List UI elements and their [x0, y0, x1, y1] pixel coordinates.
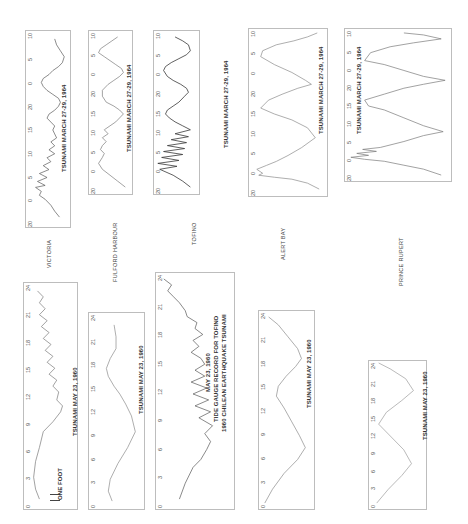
axis-tick-label: 6 — [90, 458, 96, 461]
caption-alert-bay-1960: TSUNAMI MAY 23, 1960 — [306, 339, 312, 408]
axis-tick-label: 5 — [27, 58, 33, 61]
axis-tick-label: 0 — [25, 505, 31, 508]
axis-tick-label: 9 — [25, 423, 31, 426]
station-label-tofino: TOFINO — [191, 223, 197, 245]
axis-tick-label: 18 — [90, 362, 96, 368]
axis-tick-label: 6 — [157, 448, 163, 451]
caption-prince-rupert-1964: TSUNAMI MARCH 27-29, 1964 — [356, 46, 362, 134]
axis-tick-label: 21 — [157, 304, 163, 310]
axis-tick-label: 12 — [157, 389, 163, 395]
axis-tick-label: 20 — [155, 91, 161, 97]
axis-tick-label: 10 — [346, 31, 352, 37]
axis-tick-label: 15 — [25, 367, 31, 373]
axis-tick-label: 5 — [155, 54, 161, 57]
axis-tick-label: 15 — [155, 111, 161, 117]
station-label-alert-bay: ALERT BAY — [280, 228, 286, 260]
chart-prince-rupert-1960 — [368, 360, 427, 510]
axis-tick-label: 15 — [90, 386, 96, 392]
axis-tick-label: 20 — [90, 188, 96, 194]
axis-tick-label: 20 — [346, 175, 352, 181]
axis-tick-label: 15 — [370, 416, 376, 422]
scale-label-one-foot: ONE FOOT — [57, 468, 63, 500]
caption-tofino-1964: TSUNAMI MARCH 27-29, 1964 — [223, 60, 229, 148]
axis-tick-label: 9 — [90, 434, 96, 437]
chart-fulford-1960 — [88, 312, 145, 510]
axis-tick-label: 5 — [90, 54, 96, 57]
chart-alert-bay-1964 — [248, 28, 328, 197]
axis-tick-label: 0 — [27, 199, 33, 202]
axis-tick-label: 20 — [250, 91, 256, 97]
caption-fulford-1964: TSUNAMI MARCH 27-29, 1964 — [126, 64, 132, 152]
axis-tick-label: 21 — [25, 312, 31, 318]
station-label-victoria: VICTORIA — [46, 240, 52, 268]
axis-tick-label: 3 — [370, 487, 376, 490]
caption-alert-bay-1964: TSUNAMI MARCH 27-29, 1964 — [318, 46, 324, 134]
axis-tick-label: 21 — [370, 381, 376, 387]
axis-tick-label: 18 — [370, 398, 376, 404]
caption-victoria-1964: TSUNAMI MARCH 27-29, 1964 — [61, 84, 67, 172]
axis-tick-label: 20 — [155, 188, 161, 194]
axis-tick-label: 18 — [260, 361, 266, 367]
axis-tick-label: 15 — [157, 361, 163, 367]
axis-tick-label: 0 — [155, 73, 161, 76]
axis-tick-label: 20 — [27, 104, 33, 110]
tide-curve — [369, 361, 426, 509]
station-label-prince-rupert: PRINCE RUPERT — [398, 237, 404, 286]
axis-tick-label: 9 — [370, 452, 376, 455]
axis-tick-label: 0 — [370, 505, 376, 508]
station-label-fulford-harbour: FULFORD HARBOUR — [112, 222, 118, 282]
axis-tick-label: 0 — [90, 73, 96, 76]
caption-tofino-1960-line2: TIDE GAUGE RECORD FOR TOFINO — [213, 316, 219, 422]
axis-tick-label: 12 — [370, 433, 376, 439]
axis-tick-label: 10 — [155, 130, 161, 136]
axis-tick-label: 3 — [157, 476, 163, 479]
axis-tick-label: 0 — [90, 170, 96, 173]
chart-victoria-1960 — [23, 282, 78, 510]
axis-tick-label: 15 — [260, 384, 266, 390]
axis-tick-label: 5 — [155, 151, 161, 154]
caption-fulford-1960: TSUNAMI MAY 23, 1960 — [138, 345, 144, 414]
axis-tick-label: 0 — [260, 505, 266, 508]
tide-curve — [24, 283, 77, 509]
axis-tick-label: 15 — [250, 111, 256, 117]
axis-tick-label: 10 — [155, 33, 161, 39]
axis-tick-label: 5 — [250, 152, 256, 155]
axis-tick-label: 12 — [25, 394, 31, 400]
axis-tick-label: 6 — [25, 450, 31, 453]
axis-tick-label: 10 — [250, 31, 256, 37]
axis-tick-label: 6 — [260, 457, 266, 460]
axis-tick-label: 0 — [27, 82, 33, 85]
axis-tick-label: 24 — [260, 313, 266, 319]
axis-tick-label: 6 — [370, 470, 376, 473]
axis-tick-label: 12 — [90, 409, 96, 415]
axis-tick-label: 15 — [346, 103, 352, 109]
axis-tick-label: 5 — [346, 51, 352, 54]
axis-tick-label: 12 — [260, 408, 266, 414]
axis-tick-label: 0 — [346, 159, 352, 162]
axis-tick-label: 10 — [27, 151, 33, 157]
axis-tick-label: 20 — [346, 85, 352, 91]
axis-tick-label: 9 — [157, 419, 163, 422]
axis-tick-label: 21 — [90, 339, 96, 345]
axis-tick-label: 10 — [90, 33, 96, 39]
axis-tick-label: 3 — [25, 477, 31, 480]
axis-tick-label: 10 — [250, 130, 256, 136]
axis-tick-label: 20 — [250, 190, 256, 196]
axis-tick-label: 0 — [250, 72, 256, 75]
axis-tick-label: 10 — [346, 121, 352, 127]
axis-tick-label: 0 — [157, 505, 163, 508]
axis-tick-label: 5 — [346, 141, 352, 144]
axis-tick-label: 24 — [90, 315, 96, 321]
axis-tick-label: 3 — [90, 481, 96, 484]
axis-tick-label: 0 — [346, 69, 352, 72]
axis-tick-label: 24 — [25, 285, 31, 291]
caption-prince-rupert-1960: TSUNAMI MAY 23, 1960 — [422, 371, 428, 440]
caption-tofino-1960-line3: 1960 CHILEAN EARTHQUAKE TSUNAMI — [221, 314, 227, 432]
caption-victoria-1960: TSUNAMI MAY 23, 1960 — [72, 367, 78, 436]
caption-tofino-1960-line1: MAY 23, 1960 — [205, 353, 211, 392]
scale-bar — [50, 500, 60, 501]
axis-tick-label: 24 — [157, 275, 163, 281]
axis-tick-label: 15 — [90, 111, 96, 117]
axis-tick-label: 5 — [90, 151, 96, 154]
axis-tick-label: 15 — [27, 127, 33, 133]
